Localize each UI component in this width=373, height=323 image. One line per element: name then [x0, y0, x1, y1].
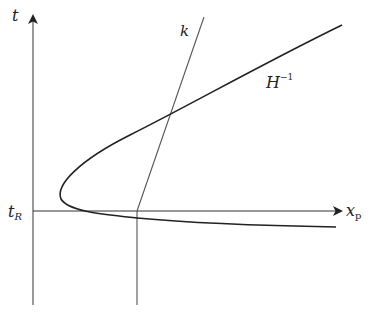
- k-line-label: k: [180, 24, 189, 39]
- h-inverse-label-main: H: [266, 73, 280, 92]
- h-inverse-label-superscript: −1: [280, 72, 293, 82]
- h-inverse-curve: [60, 25, 342, 227]
- tR-label: tR: [8, 204, 22, 222]
- xp-label-subscript: p: [355, 210, 361, 221]
- tR-label-subscript: R: [14, 211, 22, 222]
- xp-label-main: x: [346, 201, 355, 220]
- t-axis-label: t: [12, 8, 18, 24]
- xp-axis-label: xp: [346, 203, 361, 221]
- t-axis-label-text: t: [12, 6, 18, 25]
- diagram-canvas: [0, 0, 373, 323]
- h-inverse-label: H−1: [266, 73, 293, 91]
- k-line-label-text: k: [180, 22, 189, 40]
